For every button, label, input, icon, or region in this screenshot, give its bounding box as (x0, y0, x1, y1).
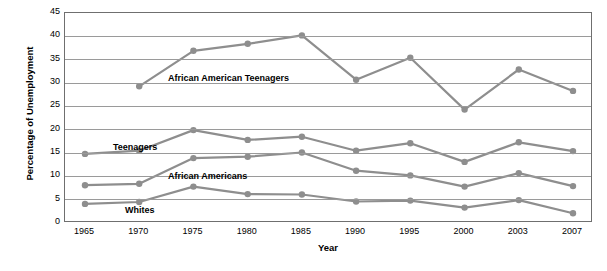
x-tick-label: 1985 (291, 226, 311, 236)
y-tick-label: 10 (34, 170, 60, 179)
x-tick-label: 2000 (454, 226, 474, 236)
x-tick-label: 1980 (237, 226, 257, 236)
gridline (65, 153, 591, 154)
data-point-marker (190, 155, 196, 161)
y-tick-label: 35 (34, 54, 60, 63)
data-point-marker (516, 139, 522, 145)
y-tick-label: 40 (34, 30, 60, 39)
y-tick-label: 0 (34, 217, 60, 226)
y-tick-label: 45 (34, 7, 60, 16)
data-point-marker (407, 140, 413, 146)
series-label-whites: Whites (125, 205, 155, 215)
data-point-marker (461, 204, 467, 210)
data-point-marker (190, 183, 196, 189)
x-tick-label: 1970 (128, 226, 148, 236)
series-label-african-american-teenagers: African American Teenagers (168, 73, 289, 83)
x-axis-title: Year (64, 242, 592, 253)
gridline (65, 36, 591, 37)
data-point-marker (245, 154, 251, 160)
data-point-marker (461, 159, 467, 165)
series-label-teenagers: Teenagers (113, 142, 157, 152)
data-point-marker (245, 137, 251, 143)
x-tick-label: 1965 (74, 226, 94, 236)
data-point-marker (82, 182, 88, 188)
data-point-marker (136, 83, 142, 89)
x-axis-tick-labels: 1965197019751980198519901995200020032007 (64, 226, 592, 240)
data-point-marker (136, 181, 142, 187)
data-point-marker (82, 201, 88, 207)
gridline (65, 59, 591, 60)
x-tick-label: 1975 (182, 226, 202, 236)
gridline (65, 129, 591, 130)
data-point-marker (461, 106, 467, 112)
y-axis-tick-labels: 051015202530354045 (30, 12, 60, 222)
y-tick-label: 5 (34, 194, 60, 203)
y-tick-label: 15 (34, 147, 60, 156)
plot-area: African American TeenagersTeenagersAfric… (64, 12, 592, 222)
gridline (65, 83, 591, 84)
data-point-marker (570, 183, 576, 189)
series-line (85, 153, 573, 187)
data-point-marker (570, 210, 576, 216)
data-point-marker (353, 168, 359, 174)
y-tick-label: 30 (34, 77, 60, 86)
gridline (65, 176, 591, 177)
data-point-marker (299, 191, 305, 197)
gridline (65, 199, 591, 200)
y-tick-label: 25 (34, 100, 60, 109)
data-point-marker (299, 134, 305, 140)
data-point-marker (190, 48, 196, 54)
x-tick-label: 1990 (345, 226, 365, 236)
x-tick-label: 2007 (562, 226, 582, 236)
data-point-marker (245, 191, 251, 197)
x-tick-label: 1995 (399, 226, 419, 236)
unemployment-line-chart: Percentage of Unemployment 0510152025303… (0, 0, 607, 271)
series-lines (65, 13, 593, 223)
gridline (65, 106, 591, 107)
data-point-marker (461, 183, 467, 189)
data-point-marker (245, 41, 251, 47)
data-point-marker (516, 66, 522, 72)
y-tick-label: 20 (34, 124, 60, 133)
data-point-marker (570, 88, 576, 94)
series-line (85, 130, 573, 162)
series-label-african-americans: African Americans (168, 171, 247, 181)
x-tick-label: 2003 (508, 226, 528, 236)
